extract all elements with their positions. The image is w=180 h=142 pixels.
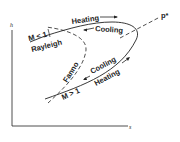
cooling-label-upper: Cooling [95, 24, 124, 35]
arrowhead-icon [114, 16, 118, 19]
fanno-label: Fanno [61, 60, 81, 84]
pstar-label: p* [161, 11, 169, 20]
subsonic-tick [48, 29, 50, 37]
h-axis-label: h [10, 22, 13, 28]
pstar-line [120, 17, 160, 38]
arrowhead-icon [83, 29, 87, 32]
h-s-diagram: h s p* Heating Cooling M < 1 Rayleigh Fa… [0, 0, 180, 142]
s-axis-label: s [129, 124, 132, 130]
arrowhead-icon [126, 57, 130, 61]
